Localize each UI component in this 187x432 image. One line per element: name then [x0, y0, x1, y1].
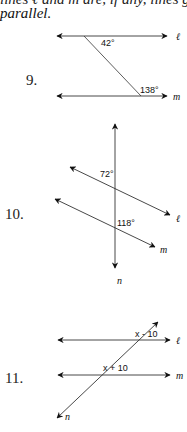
label-l: ℓ: [176, 213, 180, 224]
label-l: ℓ: [176, 335, 180, 346]
figure-10: ℓ m n 72° 118°: [55, 124, 180, 286]
angle-label-1: 42°: [101, 38, 115, 48]
label-n: n: [117, 275, 122, 286]
angle-label-2: 118°: [117, 218, 135, 228]
geometry-figures: ℓ m 42° 138° ℓ m n 72° 118° ℓ m n x - 10…: [0, 0, 187, 432]
angle-label-1: x - 10: [135, 329, 158, 339]
label-l: ℓ: [176, 31, 180, 42]
label-n: n: [65, 411, 70, 422]
angle-label-2: 138°: [140, 85, 159, 95]
angle-label-2: x + 10: [103, 363, 128, 373]
angle-label-1: 72°: [100, 169, 114, 179]
label-m: m: [173, 91, 180, 102]
line-m: [55, 199, 155, 247]
label-m: m: [176, 370, 183, 381]
figure-11: ℓ m n x - 10 x + 10: [57, 322, 183, 422]
label-m: m: [160, 244, 167, 255]
figure-9: ℓ m 42° 138°: [57, 31, 180, 102]
line-l: [70, 167, 170, 215]
